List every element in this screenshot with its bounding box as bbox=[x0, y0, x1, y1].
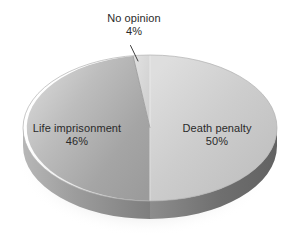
slice-label-no-opinion: No opinion 4% bbox=[82, 12, 186, 38]
slice-label-life-imprisonment-name: Life imprisonment bbox=[14, 122, 140, 135]
slice-label-life-imprisonment: Life imprisonment 46% bbox=[14, 122, 140, 148]
slice-label-death-penalty-value: 50% bbox=[166, 135, 268, 148]
slice-label-death-penalty-name: Death penalty bbox=[166, 122, 268, 135]
slice-label-no-opinion-value: 4% bbox=[82, 25, 186, 38]
pie-chart: No opinion 4% Life imprisonment 46% Deat… bbox=[0, 0, 295, 245]
slice-label-life-imprisonment-value: 46% bbox=[14, 135, 140, 148]
slice-label-death-penalty: Death penalty 50% bbox=[166, 122, 268, 148]
slice-label-no-opinion-name: No opinion bbox=[82, 12, 186, 25]
